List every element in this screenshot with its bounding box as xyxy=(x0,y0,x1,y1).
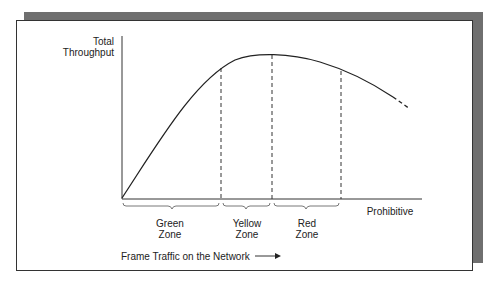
green-zone-label: Green Zone xyxy=(145,218,195,240)
throughput-curve-extrapolated xyxy=(393,97,410,109)
green-zone-brace xyxy=(123,203,219,209)
arrow-right-icon xyxy=(275,253,281,259)
red-zone-label: Red Zone xyxy=(282,218,332,240)
throughput-curve xyxy=(122,55,393,198)
y-axis-label: Total Throughput xyxy=(60,36,114,58)
yellow-zone-label: Yellow Zone xyxy=(222,218,272,240)
red-zone-brace xyxy=(274,203,339,209)
x-axis-label: Frame Traffic on the Network xyxy=(121,251,261,262)
prohibitive-label: Prohibitive xyxy=(355,206,425,217)
yellow-zone-brace xyxy=(223,203,270,209)
